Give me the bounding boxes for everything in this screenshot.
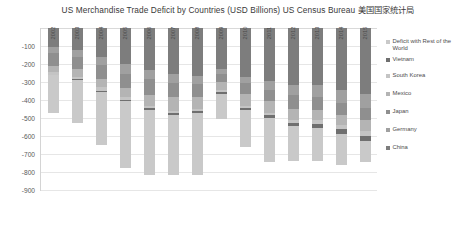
- bar-segment[interactable]: [48, 53, 59, 66]
- bar-group[interactable]: 2011: [257, 28, 281, 190]
- x-axis-tick-label: 2012: [290, 27, 296, 40]
- bar-group[interactable]: 2010: [233, 28, 257, 190]
- bar-segment[interactable]: [96, 57, 107, 65]
- y-axis-tick-label: -800: [22, 169, 35, 176]
- bar-segment[interactable]: [144, 110, 155, 175]
- y-axis-tick-label: -900: [22, 187, 35, 194]
- x-axis-tick-label: 2002: [50, 27, 56, 40]
- legend-item[interactable]: Deficit with Rest of the World: [386, 38, 465, 51]
- legend-item[interactable]: Germany: [386, 126, 465, 133]
- bar-segment[interactable]: [336, 103, 347, 115]
- stacked-bar[interactable]: [288, 28, 299, 161]
- stacked-bar[interactable]: [192, 28, 203, 175]
- legend-item[interactable]: Japan: [386, 108, 465, 115]
- legend-item-label: Deficit with Rest of the World: [393, 38, 465, 51]
- bar-group[interactable]: 2003: [65, 28, 89, 190]
- bar-segment[interactable]: [168, 74, 179, 82]
- bar-segment[interactable]: [192, 76, 203, 84]
- bar-segment[interactable]: [240, 94, 251, 106]
- stacked-bar[interactable]: [240, 28, 251, 147]
- bar-segment[interactable]: [144, 70, 155, 79]
- stacked-bar[interactable]: [96, 28, 107, 145]
- stacked-bar[interactable]: [168, 28, 179, 175]
- stacked-bar[interactable]: [216, 28, 227, 119]
- legend-item[interactable]: China: [386, 144, 465, 151]
- bar-segment[interactable]: [48, 66, 59, 73]
- bar-group[interactable]: 2004: [89, 28, 113, 190]
- bar-segment[interactable]: [72, 69, 83, 76]
- bar-segment[interactable]: [288, 109, 299, 120]
- bar-segment[interactable]: [360, 94, 371, 108]
- bar-segment[interactable]: [144, 79, 155, 95]
- legend-item[interactable]: Mexico: [386, 90, 465, 97]
- bar-group[interactable]: 2009: [209, 28, 233, 190]
- bar-segment[interactable]: [240, 110, 251, 148]
- bar-segment[interactable]: [336, 90, 347, 103]
- bar-segment[interactable]: [360, 120, 371, 131]
- bar-group[interactable]: 2014: [329, 28, 353, 190]
- bar-group[interactable]: 2006: [137, 28, 161, 190]
- bar-segment[interactable]: [120, 74, 131, 89]
- x-axis-tick-label: 2008: [194, 27, 200, 40]
- legend-color-swatch: [386, 110, 390, 114]
- bar-segment[interactable]: [264, 81, 275, 90]
- bar-segment[interactable]: [72, 50, 83, 57]
- legend-item[interactable]: Vietnam: [386, 56, 465, 63]
- stacked-bar[interactable]: [360, 28, 371, 162]
- bar-segment[interactable]: [192, 113, 203, 175]
- bar-segment[interactable]: [168, 115, 179, 175]
- bar-group[interactable]: 2013: [305, 28, 329, 190]
- bar-segment[interactable]: [312, 110, 323, 120]
- bar-segment[interactable]: [216, 82, 227, 90]
- legend-item-label: Germany: [393, 126, 465, 133]
- legend-item[interactable]: South Korea: [386, 72, 465, 79]
- bar-segment[interactable]: [240, 83, 251, 94]
- stacked-bar[interactable]: [264, 28, 275, 162]
- bar-segment[interactable]: [336, 134, 347, 165]
- bar-segment[interactable]: [144, 95, 155, 107]
- bar-segment[interactable]: [192, 84, 203, 97]
- bar-segment[interactable]: [288, 85, 299, 96]
- stacked-bar[interactable]: [120, 28, 131, 168]
- bar-group[interactable]: 2005: [113, 28, 137, 190]
- bar-segment[interactable]: [312, 128, 323, 161]
- bar-group[interactable]: 2008: [185, 28, 209, 190]
- stacked-bar[interactable]: [48, 28, 59, 113]
- bar-segment[interactable]: [192, 97, 203, 109]
- bar-group[interactable]: 2015: [353, 28, 377, 190]
- plot-area: 2002200320042005200620072008200920102011…: [40, 28, 377, 191]
- bar-segment[interactable]: [120, 88, 131, 97]
- stacked-bar[interactable]: [336, 28, 347, 165]
- bar-segment[interactable]: [360, 108, 371, 120]
- bar-group[interactable]: 2007: [161, 28, 185, 190]
- legend-item-label: Japan: [393, 108, 465, 115]
- bar-group[interactable]: 2002: [41, 28, 65, 190]
- stacked-bar[interactable]: [144, 28, 155, 175]
- bar-segment[interactable]: [96, 65, 107, 79]
- bar-segment[interactable]: [96, 79, 107, 87]
- bar-segment[interactable]: [72, 80, 83, 124]
- bar-series-layer: 2002200320042005200620072008200920102011…: [41, 28, 377, 190]
- bar-segment[interactable]: [48, 75, 59, 113]
- bar-segment[interactable]: [312, 85, 323, 97]
- bar-segment[interactable]: [264, 101, 275, 113]
- bar-segment[interactable]: [72, 57, 83, 69]
- bar-segment[interactable]: [120, 64, 131, 73]
- bar-segment[interactable]: [216, 94, 227, 119]
- bar-segment[interactable]: [168, 97, 179, 111]
- bar-segment[interactable]: [168, 83, 179, 98]
- bar-segment[interactable]: [120, 101, 131, 167]
- stacked-bar[interactable]: [72, 28, 83, 123]
- bar-segment[interactable]: [288, 126, 299, 161]
- legend-item-label: Mexico: [393, 90, 465, 97]
- bar-segment[interactable]: [96, 92, 107, 145]
- bar-segment[interactable]: [264, 118, 275, 163]
- stacked-bar[interactable]: [312, 28, 323, 161]
- bar-segment[interactable]: [336, 115, 347, 125]
- bar-segment[interactable]: [360, 141, 371, 162]
- bar-segment[interactable]: [264, 90, 275, 101]
- bar-segment[interactable]: [312, 97, 323, 110]
- bar-segment[interactable]: [216, 74, 227, 82]
- bar-group[interactable]: 2012: [281, 28, 305, 190]
- bar-segment[interactable]: [288, 95, 299, 109]
